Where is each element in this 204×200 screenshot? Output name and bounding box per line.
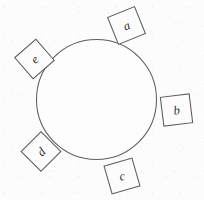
label-square-c[interactable]: c [104,158,140,194]
figure-canvas: abcde [0,0,204,200]
label-square-a[interactable]: a [108,7,146,45]
diagram-svg: abcde [0,0,204,200]
central-circle [37,40,157,160]
label-square-b[interactable]: b [160,94,192,126]
